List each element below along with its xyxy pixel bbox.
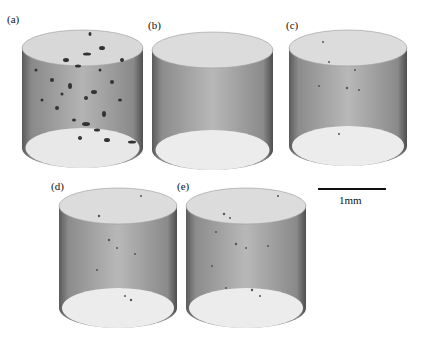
scale-bar-label: 1mm — [339, 194, 362, 206]
cylinder-render-b — [152, 32, 273, 170]
cylinder-render-a — [22, 30, 143, 168]
panel-label-b: (b) — [148, 20, 161, 31]
panel-label-a: (a) — [7, 14, 19, 25]
cylinder-render-e — [186, 188, 306, 328]
cylinder-render-d — [59, 188, 177, 328]
cylinder-render-c — [289, 30, 407, 166]
scale-bar — [318, 188, 386, 190]
